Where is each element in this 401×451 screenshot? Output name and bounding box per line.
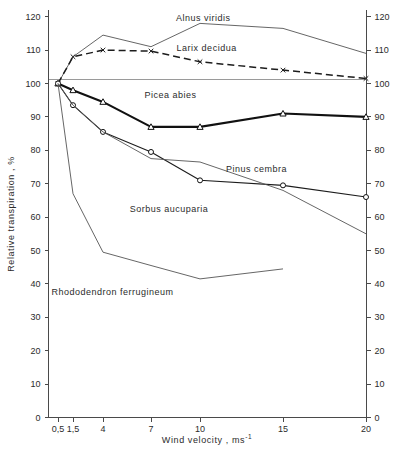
- x-tick-label: 20: [361, 424, 371, 434]
- y-tick-label-left: 120: [25, 12, 40, 22]
- y-tick-label-right: 0: [375, 413, 380, 423]
- series-label-rhododendron-ferrugineum: Rhododendron ferrugineum: [52, 287, 174, 297]
- y-tick-label-left: 20: [30, 346, 40, 356]
- x-tick-label: 10: [195, 424, 205, 434]
- y-tick-label-left: 90: [30, 112, 40, 122]
- series-line: [58, 84, 366, 127]
- y-tick-label-right: 100: [375, 79, 390, 89]
- series-rhododendron-ferrugineum: [58, 84, 283, 279]
- y-tick-label-right: 60: [375, 212, 385, 222]
- svg-text:Relative transpiration , %: Relative transpiration , %: [6, 156, 16, 272]
- series-line: [58, 50, 366, 83]
- series-picea-abies: [55, 80, 369, 129]
- x-tick-label: 0,5: [52, 424, 65, 434]
- y-tick-label-right: 110: [375, 45, 389, 55]
- y-tick-label-left: 70: [30, 179, 40, 189]
- data-point-circle: [364, 195, 369, 200]
- y-axis-left-ticks: 0102030405060708090100110120: [25, 12, 48, 423]
- data-point-circle: [281, 183, 286, 188]
- svg-text:Wind velocity , ms-1: Wind velocity , ms-1: [162, 433, 252, 445]
- y-tick-label-right: 30: [375, 312, 385, 322]
- y-tick-label-right: 120: [375, 12, 390, 22]
- y-tick-label-left: 50: [30, 246, 40, 256]
- series-line: [58, 84, 366, 234]
- series-label-alnus-viridis: Alnus viridis: [176, 13, 231, 23]
- y-tick-label-left: 10: [30, 379, 40, 389]
- data-series-layer: [55, 23, 369, 279]
- x-tick-label: 15: [278, 424, 288, 434]
- data-point-circle: [198, 178, 203, 183]
- y-axis-title: Relative transpiration , %: [6, 156, 16, 272]
- series-label-sorbus-aucuparia: Sorbus aucuparia: [130, 204, 209, 214]
- data-point-circle: [149, 149, 154, 154]
- y-tick-label-left: 60: [30, 212, 40, 222]
- y-tick-label-left: 40: [30, 279, 40, 289]
- y-tick-label-left: 110: [26, 45, 40, 55]
- x-tick-label: 1,5: [67, 424, 80, 434]
- y-tick-label-left: 30: [30, 312, 40, 322]
- series-label-pinus-cembra: Pinus cembra: [226, 164, 287, 174]
- y-tick-label-left: 100: [25, 79, 40, 89]
- series-label-picea-abies: Picea abies: [145, 90, 197, 100]
- y-axis-right-ticks: 0102030405060708090100110120: [367, 12, 390, 423]
- y-tick-label-right: 50: [375, 246, 385, 256]
- x-axis-ticks: 0,51,547101520: [52, 418, 371, 434]
- y-tick-label-right: 20: [375, 346, 385, 356]
- series-inline-labels: Alnus viridisLarix deciduaPicea abiesPin…: [52, 13, 287, 297]
- transpiration-line-chart: 0102030405060708090100110120 01020304050…: [0, 0, 401, 451]
- y-tick-label-left: 0: [35, 413, 40, 423]
- axes: [49, 10, 367, 418]
- y-tick-label-right: 40: [375, 279, 385, 289]
- x-tick-label: 4: [100, 424, 105, 434]
- x-axis-title: Wind velocity , ms-1: [162, 433, 252, 445]
- y-tick-label-right: 70: [375, 179, 385, 189]
- x-tick-label: 7: [148, 424, 153, 434]
- chart-figure: 0102030405060708090100110120 01020304050…: [0, 0, 401, 451]
- y-tick-label-right: 10: [375, 379, 385, 389]
- series-sorbus-aucuparia: [58, 84, 366, 234]
- y-tick-label-left: 80: [30, 145, 40, 155]
- series-larix-decidua: [56, 48, 369, 86]
- series-line: [58, 84, 283, 279]
- y-tick-label-right: 90: [375, 112, 385, 122]
- y-tick-label-right: 80: [375, 145, 385, 155]
- series-label-larix-decidua: Larix decidua: [177, 43, 237, 53]
